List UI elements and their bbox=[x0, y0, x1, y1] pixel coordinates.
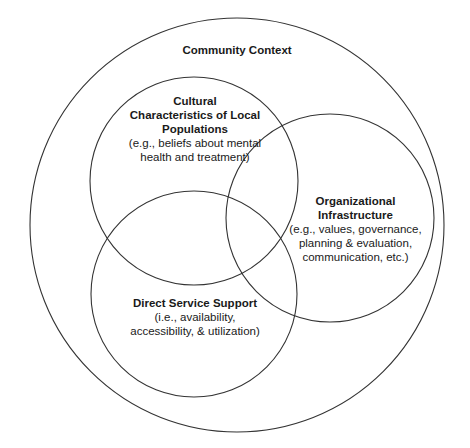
direct-desc-line: (i.e., availability, bbox=[115, 310, 275, 324]
direct-desc-line: accessibility, & utilization) bbox=[115, 324, 275, 338]
direct-title-line: Direct Service Support bbox=[115, 296, 275, 310]
cultural-desc-line: health and treatment) bbox=[110, 150, 280, 164]
org-desc-line: communication, etc.) bbox=[288, 250, 423, 264]
community-context-title: Community Context bbox=[137, 43, 337, 57]
org-desc-line: planning & evaluation, bbox=[288, 236, 423, 250]
cultural-title-line: Characteristics of Local bbox=[110, 108, 280, 122]
direct-service-support-label: Direct Service Support (i.e., availabili… bbox=[115, 296, 275, 338]
organizational-infrastructure-label: Organizational Infrastructure (e.g., val… bbox=[288, 194, 423, 264]
org-title-line: Organizational bbox=[288, 194, 423, 208]
org-desc-line: (e.g., values, governance, bbox=[288, 222, 423, 236]
org-title-line: Infrastructure bbox=[288, 208, 423, 222]
community-context-label: Community Context bbox=[137, 43, 337, 57]
direct-service-support-circle bbox=[91, 191, 297, 397]
cultural-characteristics-label: Cultural Characteristics of Local Popula… bbox=[110, 94, 280, 164]
cultural-desc-line: (e.g., beliefs about mental bbox=[110, 136, 280, 150]
cultural-title-line: Cultural bbox=[110, 94, 280, 108]
cultural-title-line: Populations bbox=[110, 122, 280, 136]
